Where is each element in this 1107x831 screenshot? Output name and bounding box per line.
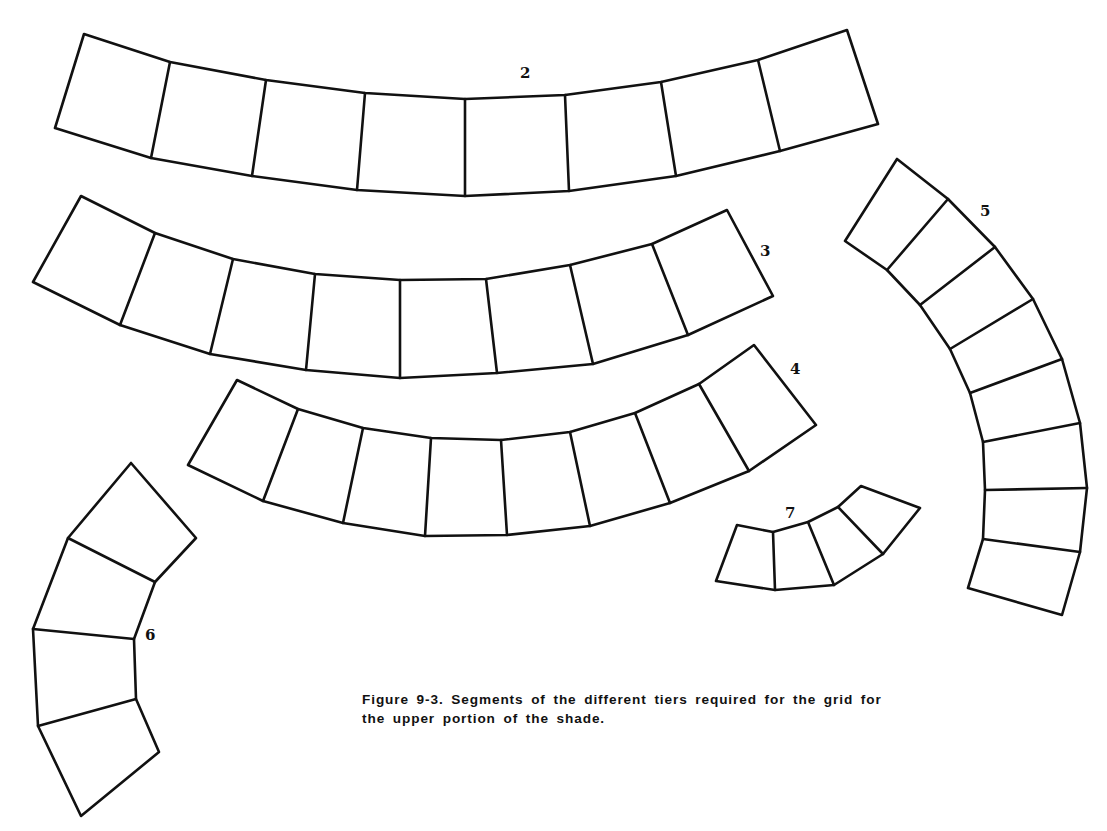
segment-divider bbox=[120, 233, 155, 325]
segment-divider bbox=[210, 259, 233, 354]
figure-caption-line-2: the upper portion of the shade. bbox=[362, 709, 1082, 728]
tier-6-strip bbox=[33, 463, 196, 816]
segment-divider bbox=[970, 359, 1062, 393]
segment-divider bbox=[151, 62, 170, 158]
strip-outline bbox=[845, 159, 1087, 615]
tier-3-label: 3 bbox=[760, 242, 770, 260]
segment-divider bbox=[950, 299, 1033, 349]
segment-divider bbox=[33, 629, 134, 639]
tier-7-label: 7 bbox=[785, 504, 795, 522]
segment-divider bbox=[758, 60, 780, 151]
segment-divider bbox=[983, 423, 1080, 442]
segment-divider bbox=[486, 279, 497, 373]
tier-7-strip bbox=[716, 486, 920, 590]
tier-4-label: 4 bbox=[790, 360, 800, 378]
segment-divider bbox=[887, 199, 948, 270]
tier-5-strip bbox=[845, 159, 1087, 615]
tier-5-label: 5 bbox=[980, 202, 990, 220]
segment-divider bbox=[252, 80, 266, 176]
segment-divider bbox=[343, 428, 363, 523]
segment-divider bbox=[699, 384, 749, 471]
segment-divider bbox=[838, 507, 883, 554]
strip-outline bbox=[716, 486, 920, 590]
segment-divider bbox=[661, 82, 676, 176]
segment-divider bbox=[38, 699, 136, 726]
tier-2-label: 2 bbox=[520, 64, 530, 82]
segment-divider bbox=[652, 244, 688, 335]
segment-divider bbox=[635, 413, 670, 503]
segment-divider bbox=[68, 538, 155, 582]
strip-outline bbox=[55, 30, 878, 196]
segment-divider bbox=[501, 440, 507, 535]
segment-divider bbox=[570, 432, 590, 526]
segment-divider bbox=[570, 265, 593, 364]
segment-divider bbox=[808, 522, 834, 585]
strip-outline bbox=[33, 196, 773, 378]
segment-divider bbox=[920, 247, 995, 305]
segment-divider bbox=[983, 539, 1080, 552]
tier-2-strip bbox=[55, 30, 878, 196]
tier-6-label: 6 bbox=[145, 626, 155, 644]
segment-divider bbox=[357, 93, 365, 190]
segment-divider bbox=[425, 438, 431, 536]
figure-caption-line-1: Figure 9-3. Segments of the different ti… bbox=[362, 690, 1082, 709]
segment-divider bbox=[565, 95, 569, 191]
segment-divider bbox=[773, 532, 775, 590]
figure-caption: Figure 9-3. Segments of the different ti… bbox=[362, 690, 1082, 728]
segment-divider bbox=[985, 488, 1087, 490]
strip-outline bbox=[33, 463, 196, 816]
tier-3-strip bbox=[33, 196, 773, 378]
segment-divider bbox=[263, 409, 298, 501]
segment-divider bbox=[306, 274, 315, 370]
